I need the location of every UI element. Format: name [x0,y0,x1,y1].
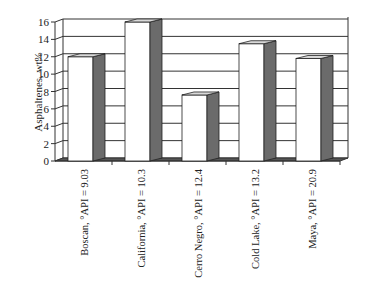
x-tick-label: Maya, °API = 20.9 [307,169,318,249]
bar-front [68,57,93,161]
bar [296,55,333,161]
bar [125,19,162,161]
bar-side [207,92,219,161]
gridline-depth [55,54,63,57]
gridline-depth [55,89,63,92]
bar-front [182,95,207,161]
x-tick-label: Cerro Negro, °API = 12.4 [193,168,204,277]
bar-side [150,19,162,161]
y-axis-title: Asphaltenes, wt% [32,52,44,131]
y-tick-label: 16 [38,16,50,28]
bar-side [264,41,276,161]
x-tick-label: Boscan, °API = 9.03 [79,169,90,256]
bar-front [296,58,321,161]
gridline-depth [55,36,63,39]
y-tick-label: 0 [44,155,50,167]
bar-side [321,55,333,161]
y-tick-label: 2 [44,138,50,150]
gridline-depth [55,123,63,126]
bar-front [239,44,264,161]
x-tick-label: California, °API = 10.3 [136,169,147,267]
bar [182,92,219,161]
bar-front [125,22,150,161]
bar [239,41,276,161]
y-tick-label: 8 [44,86,50,98]
y-tick-label: 4 [44,120,50,132]
x-tick-label: Cold Lake, °API = 13.2 [250,169,261,269]
bar-side [93,54,105,161]
gridline-depth [55,106,63,109]
y-tick-label: 6 [44,103,50,115]
bar [68,54,105,161]
gridline-depth [55,19,63,22]
plot-area: 0246810121416Boscan, °API = 9.03Californ… [38,16,348,278]
gridline-depth [55,141,63,144]
gridline-depth [55,71,63,74]
bar-chart: 0246810121416Boscan, °API = 9.03Californ… [0,0,365,295]
y-tick-label: 14 [38,33,50,45]
